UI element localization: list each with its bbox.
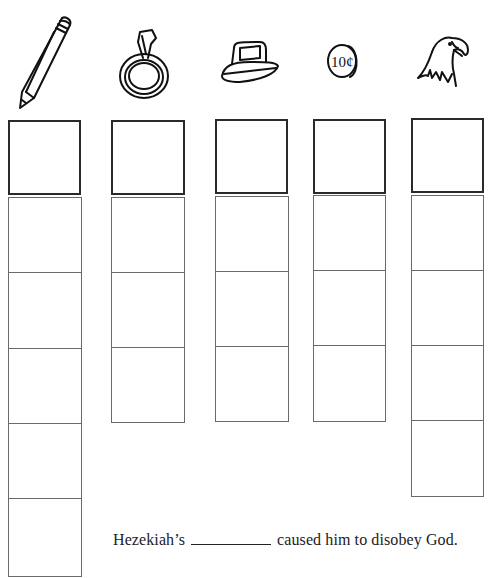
letter-cell[interactable] (112, 198, 184, 273)
letter-cell[interactable] (412, 346, 483, 421)
eagle-head-icon (412, 34, 472, 94)
letter-cell[interactable] (412, 271, 483, 346)
eagle-cell-stack (411, 195, 484, 497)
letter-cell[interactable] (216, 272, 288, 347)
fill-in-sentence: Hezekiah’scaused him to disobey God. (113, 531, 458, 549)
dime-coin-icon: 10¢ (326, 42, 362, 80)
letter-cell[interactable] (9, 198, 81, 273)
pencil-cell-stack (8, 197, 82, 577)
letter-cell[interactable] (112, 348, 184, 422)
letter-cell[interactable] (9, 273, 81, 349)
sentence-suffix: caused him to disobey God. (277, 531, 458, 548)
answer-blank[interactable] (191, 532, 271, 545)
iron-icon (220, 40, 282, 86)
ring-cell-stack (111, 197, 185, 423)
eagle-answer-box[interactable] (411, 118, 484, 193)
letter-cell[interactable] (314, 346, 385, 421)
coin-label: 10¢ (331, 54, 354, 70)
dime-answer-box[interactable] (313, 119, 386, 194)
letter-cell[interactable] (314, 196, 385, 271)
letter-cell[interactable] (216, 197, 288, 272)
ring-answer-box[interactable] (111, 120, 185, 195)
letter-cell[interactable] (412, 196, 483, 271)
letter-cell[interactable] (216, 347, 288, 421)
iron-cell-stack (215, 196, 289, 422)
sentence-prefix: Hezekiah’s (113, 531, 185, 548)
pencil-icon (14, 12, 74, 112)
iron-answer-box[interactable] (215, 119, 288, 194)
letter-cell[interactable] (314, 271, 385, 346)
dime-cell-stack (313, 195, 386, 422)
ring-icon (118, 26, 174, 102)
pencil-answer-box[interactable] (8, 120, 81, 195)
letter-cell[interactable] (9, 424, 81, 499)
letter-cell[interactable] (112, 273, 184, 348)
letter-cell[interactable] (9, 499, 81, 578)
letter-cell[interactable] (412, 421, 483, 496)
letter-cell[interactable] (9, 349, 81, 424)
